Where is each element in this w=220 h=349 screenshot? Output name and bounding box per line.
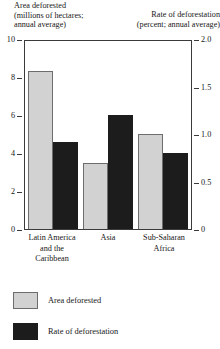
right-axis-tick-label: 2.0 xyxy=(201,36,220,44)
right-axis-tick-label: 0.5 xyxy=(201,179,220,187)
deforestation-chart: Area deforested (millions of hectares; a… xyxy=(0,0,220,349)
right-axis-tick xyxy=(194,40,199,41)
bar-rate-deforestation xyxy=(163,153,188,229)
left-axis-tick-label: 8 xyxy=(0,74,15,82)
bar-area-deforested xyxy=(28,71,53,229)
right-axis-title: Rate of deforestation (percent; annual a… xyxy=(108,10,220,29)
bar-group xyxy=(138,41,188,229)
right-axis: 00.51.01.52.0 xyxy=(194,40,218,230)
left-axis-title: Area deforested (millions of hectares; a… xyxy=(14,1,84,30)
bar-group xyxy=(28,41,78,229)
left-axis-tick-label: 2 xyxy=(0,188,15,196)
right-axis-tick xyxy=(194,183,199,184)
left-axis-tick-label: 10 xyxy=(0,36,15,44)
right-axis-tick-label: 1.0 xyxy=(201,131,220,139)
category-label: Asia xyxy=(80,233,136,244)
left-axis-tick xyxy=(17,40,22,41)
right-axis-tick xyxy=(194,135,199,136)
bar-rate-deforestation xyxy=(53,142,78,229)
left-axis-tick xyxy=(17,230,22,231)
legend-swatch xyxy=(13,292,38,309)
left-axis-tick-label: 0 xyxy=(0,226,15,234)
right-axis-tick-label: 0 xyxy=(201,226,220,234)
right-axis-tick-label: 1.5 xyxy=(201,84,220,92)
bar-groups xyxy=(25,41,191,229)
left-axis: 0246810 xyxy=(0,40,22,230)
bar-rate-deforestation xyxy=(108,115,133,229)
bar-area-deforested xyxy=(83,163,108,230)
category-label: Sub-Saharan Africa xyxy=(136,233,192,254)
bar-group xyxy=(83,41,133,229)
left-axis-tick-label: 4 xyxy=(0,150,15,158)
left-axis-tick xyxy=(17,154,22,155)
legend-label: Area deforested xyxy=(48,296,101,305)
left-axis-tick xyxy=(17,192,22,193)
legend-item: Area deforested xyxy=(13,292,213,309)
legend: Area deforestedRate of deforestation xyxy=(13,292,213,349)
category-label: Latin America and the Caribbean xyxy=(24,233,80,265)
right-axis-tick xyxy=(194,88,199,89)
legend-swatch xyxy=(13,323,38,340)
bar-area-deforested xyxy=(138,134,163,229)
left-axis-tick xyxy=(17,116,22,117)
legend-label: Rate of deforestation xyxy=(48,327,118,336)
left-axis-tick-label: 6 xyxy=(0,112,15,120)
right-axis-tick xyxy=(194,230,199,231)
category-labels: Latin America and the CaribbeanAsiaSub-S… xyxy=(24,233,192,281)
plot-area xyxy=(24,40,192,230)
legend-item: Rate of deforestation xyxy=(13,323,213,340)
left-axis-tick xyxy=(17,78,22,79)
